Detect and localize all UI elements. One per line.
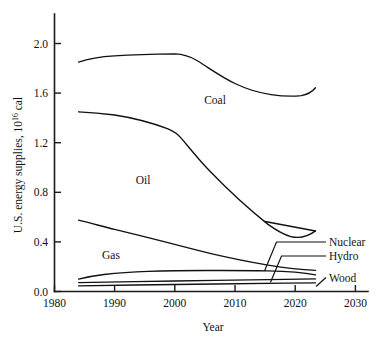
callout-series-labels: Nuclear Hydro Wood	[329, 236, 366, 284]
y-axis-title-group: U.S. energy supplies, 1016 cal	[11, 97, 26, 233]
y-tick-labels: 0.0 0.4 0.8 1.2 1.6 2.0	[34, 38, 49, 298]
y-tick-label-4: 1.6	[34, 87, 49, 99]
series-label-hydro: Hydro	[329, 250, 359, 263]
x-axis-title: Year	[202, 321, 223, 333]
y-tick-label-2: 0.8	[34, 186, 49, 198]
y-tick-label-5: 2.0	[34, 38, 49, 50]
series-line-wood	[79, 283, 316, 286]
series-line-nuclear	[79, 270, 316, 279]
series-line-oil-tail	[265, 222, 316, 232]
series-label-coal: Coal	[204, 94, 226, 106]
y-axis-title-exponent: 16	[11, 113, 20, 121]
x-tick-label-5: 2030	[344, 297, 367, 309]
series-line-coal	[79, 54, 316, 96]
series-label-nuclear: Nuclear	[329, 236, 366, 248]
x-tick-label-1: 1990	[103, 297, 126, 309]
y-tick-label-1: 0.4	[34, 236, 49, 248]
x-tick-label-0: 1980	[43, 297, 66, 309]
series-label-wood: Wood	[329, 272, 356, 284]
y-tick-group	[55, 44, 62, 292]
y-tick-label-0: 0.0	[34, 286, 49, 298]
line-chart-canvas: 0.0 0.4 0.8 1.2 1.6 2.0 1980 1990 2000 2…	[0, 0, 381, 346]
y-axis-title: U.S. energy supplies, 1016 cal	[11, 97, 26, 233]
x-tick-label-4: 2020	[284, 297, 307, 309]
y-tick-label-3: 1.2	[34, 137, 49, 149]
series-label-oil: Oil	[136, 174, 151, 186]
series-label-gas: Gas	[102, 249, 120, 261]
x-tick-label-2: 2000	[163, 297, 186, 309]
series-line-hydro	[79, 279, 316, 283]
leader-line-wood	[316, 278, 326, 287]
series-line-oil	[79, 112, 316, 238]
series-line-gas	[79, 220, 316, 270]
x-tick-label-3: 2010	[224, 297, 247, 309]
y-axis-title-main: U.S. energy supplies, 10	[12, 121, 25, 233]
inline-series-labels: Coal Oil Gas	[102, 94, 226, 261]
x-tick-labels: 1980 1990 2000 2010 2020 2030	[43, 297, 367, 309]
chart-figure: 0.0 0.4 0.8 1.2 1.6 2.0 1980 1990 2000 2…	[0, 0, 381, 346]
y-axis-title-unit: cal	[12, 97, 24, 113]
